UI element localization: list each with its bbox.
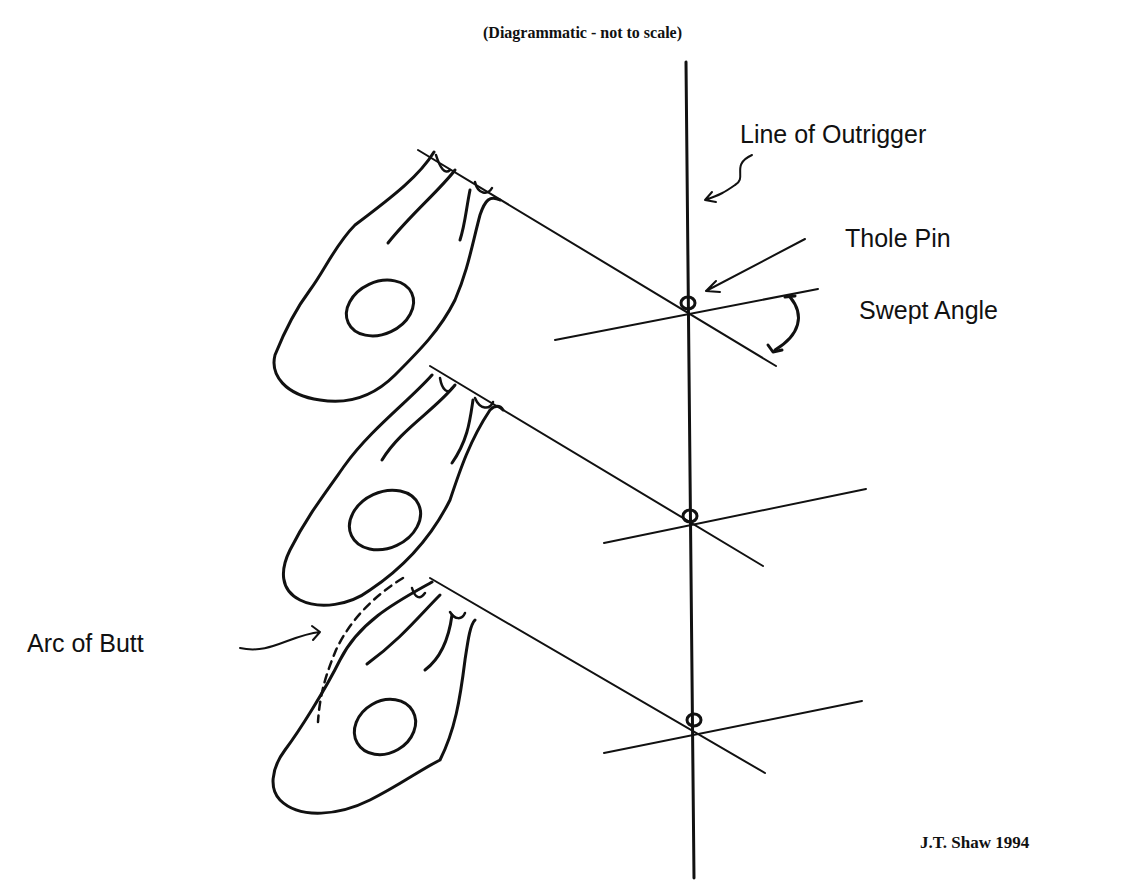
finger-2 (452, 400, 473, 463)
outrigger-line (686, 62, 694, 878)
thole-pin-pointer-arrow (706, 239, 805, 292)
hand-outline (273, 582, 475, 813)
finger-2 (425, 615, 452, 670)
thole-pin-icon (687, 714, 701, 726)
finger-2 (460, 190, 470, 240)
perpendicular-line (604, 489, 866, 543)
oar-position-catch (274, 150, 818, 401)
label-swept-angle: Swept Angle (859, 296, 998, 325)
hand-outline (274, 152, 500, 401)
swept-angle-arrow (775, 297, 798, 350)
oar-shaft (430, 366, 763, 566)
finger-1 (367, 595, 440, 664)
subtitle: (Diagrammatic - not to scale) (483, 24, 682, 42)
oar-position-finish (240, 578, 862, 813)
thumb (412, 588, 465, 618)
palm-mark (344, 688, 425, 765)
palm-mark (337, 270, 422, 347)
label-thole-pin: Thole Pin (845, 224, 951, 253)
label-line-of-outrigger: Line of Outrigger (740, 120, 926, 149)
finger-1 (382, 385, 455, 460)
label-arc-of-butt: Arc of Butt (27, 629, 144, 658)
finger-1 (388, 170, 455, 243)
perpendicular-line (604, 701, 862, 753)
credit: J.T. Shaw 1994 (920, 833, 1029, 853)
swept-angle-arrowhead (768, 296, 795, 352)
arc-of-butt-pointer-arrow (240, 626, 320, 649)
outrigger-pointer-arrow (705, 155, 752, 202)
oar-position-middle (283, 366, 866, 605)
oar-shaft (430, 578, 765, 773)
rowing-sweep-diagram (0, 0, 1130, 892)
diagram-canvas: (Diagrammatic - not to scale) Line of Ou… (0, 0, 1130, 892)
thumb (436, 155, 492, 193)
oar-shaft (418, 150, 776, 366)
